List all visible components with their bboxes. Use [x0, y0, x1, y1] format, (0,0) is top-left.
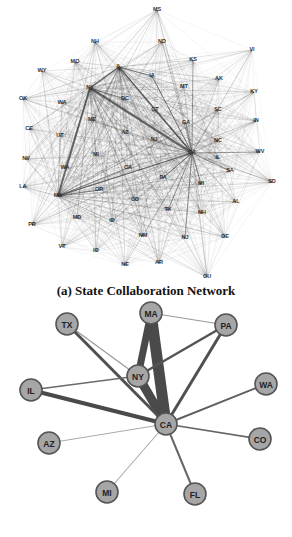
node-label-nh: NH — [91, 38, 99, 44]
network-edge — [125, 237, 225, 265]
network-edge — [225, 202, 236, 237]
node-label-mi: MI — [93, 151, 100, 157]
edge-az-ca — [49, 424, 166, 443]
node-ny: NY — [127, 365, 149, 387]
network-edge — [75, 10, 157, 62]
network-edge — [225, 182, 272, 237]
node-mi: MI — [96, 481, 118, 503]
edge-haze — [23, 10, 272, 277]
node-label-pa: PA — [159, 174, 166, 180]
node-label-ct: CT — [151, 106, 159, 112]
node-label: NY — [132, 372, 144, 382]
node-label-nh2: NH — [198, 209, 206, 215]
node-ma: MA — [140, 302, 162, 324]
node-label-wa2: WA — [61, 164, 70, 170]
node-label-ak: AK — [215, 75, 223, 81]
node-wa: WA — [255, 373, 277, 395]
node-label-ky: KY — [250, 88, 258, 94]
node-label-mt: MT — [180, 83, 189, 89]
edge-il-ny — [31, 376, 138, 390]
node-label-nd: ND — [158, 38, 166, 44]
node-label-sd: SD — [268, 178, 276, 184]
node-label-az: AZ — [121, 129, 129, 135]
edge-co-ca — [166, 424, 260, 439]
node-label-ar: AR — [155, 259, 163, 265]
node-label-nj2: NJ — [150, 136, 157, 142]
node-label-la: LA — [19, 183, 26, 189]
node-label: FL — [190, 490, 200, 500]
node-label-in: IN — [253, 117, 259, 123]
node-label-wa: WA — [58, 99, 67, 105]
node-label-ms: MS — [153, 6, 162, 12]
node-label-ca2: CA — [124, 164, 132, 170]
figure-caption: (a) State Collaboration Network — [0, 283, 292, 299]
node-label: CO — [254, 435, 267, 445]
node-fl: FL — [184, 483, 206, 505]
node-pa: PA — [215, 314, 237, 336]
node-label-ce: CE — [25, 125, 33, 131]
node-label-ks: KS — [189, 56, 197, 62]
node-label-mo: MO — [71, 58, 81, 64]
node-label-nv: NV — [22, 155, 30, 161]
node-label: TX — [62, 320, 73, 330]
node-label-ne: NE — [121, 261, 129, 267]
node-label: MA — [144, 309, 157, 319]
node-label-de: DE — [221, 233, 229, 239]
node-label-vt: VT — [58, 243, 66, 249]
full-network-graph: MSNHNDVIMOKSWYILAKIAMTKYNYOKDCWASCCTMEIN… — [0, 0, 292, 282]
state-collaboration-network-full: MSNHNDVIMOKSWYILAKIAMTKYNYOKDCWASCCTMEIN… — [0, 0, 292, 282]
node-label-lt: UT — [56, 132, 64, 138]
node-label-il2: IL — [216, 154, 222, 160]
edge-pa-ca — [166, 325, 226, 424]
node-label-dc: DC — [121, 95, 129, 101]
node-label-ok: OK — [19, 95, 27, 101]
edge-mi-ca — [107, 424, 166, 492]
edge-wa-ca — [166, 384, 266, 424]
node-label-co: CO — [131, 196, 140, 202]
node-label: WA — [259, 380, 273, 390]
node-co: CO — [249, 428, 271, 450]
node-label-gu: GU — [203, 273, 211, 279]
node-label-wv: WV — [256, 148, 265, 154]
node-label-vi: VI — [249, 46, 255, 52]
node-label-ia: IA — [149, 72, 155, 78]
top-states-edges — [31, 313, 266, 494]
node-label-or: OR — [95, 186, 103, 192]
network-edge — [207, 182, 272, 277]
node-label: MI — [102, 488, 111, 498]
node-label: IL — [27, 386, 35, 396]
node-label-pr: PR — [28, 221, 36, 227]
node-label: CA — [160, 420, 172, 430]
network-edge — [42, 10, 157, 71]
node-ca: CA — [155, 413, 177, 435]
node-label-ny: NY — [86, 84, 94, 90]
node-label-il: IL — [117, 63, 123, 69]
node-tx: TX — [56, 313, 78, 335]
node-label-id: ID — [109, 217, 115, 223]
node-label-ca: CA — [188, 149, 196, 155]
node-label-io: IO — [93, 247, 100, 253]
node-az: AZ — [38, 432, 60, 454]
top-states-collaboration-network: MATXPANYILWACAAZCOMIFL — [0, 300, 292, 537]
node-label-nj: NJ — [181, 234, 188, 240]
node-label-wy: WY — [38, 67, 47, 73]
node-label-mc: NC — [214, 137, 222, 143]
node-label-tx: TX — [164, 206, 171, 212]
edge-tx-ny — [67, 324, 138, 376]
node-label: AZ — [43, 439, 54, 449]
node-il: IL — [20, 379, 42, 401]
node-label-sa: SA — [226, 167, 234, 173]
node-label-nm: NM — [139, 232, 148, 238]
node-label-sc: SC — [214, 106, 222, 112]
node-label-ga: GA — [182, 119, 190, 125]
node-label: PA — [220, 321, 231, 331]
node-label-md: MD — [73, 214, 82, 220]
node-label-al: AL — [232, 198, 240, 204]
node-label-me: ME — [88, 116, 97, 122]
node-label-mi2: MI — [198, 180, 205, 186]
node-label-ma: MA — [54, 192, 63, 198]
top-states-graph: MATXPANYILWACAAZCOMIFL — [0, 300, 292, 537]
